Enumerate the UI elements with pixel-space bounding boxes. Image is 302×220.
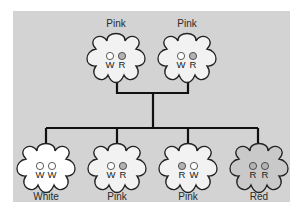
offspring-flower-pink-2: R W bbox=[159, 144, 217, 193]
offspring-label-3: Pink bbox=[178, 191, 198, 202]
allele-letter: R bbox=[262, 169, 269, 180]
offspring-label-1: White bbox=[33, 191, 59, 202]
allele-letter: R bbox=[179, 169, 186, 180]
parent-flower-1: W R bbox=[87, 34, 145, 83]
offspring-label-4: Red bbox=[250, 191, 268, 202]
allele-letter: R bbox=[119, 59, 126, 70]
allele-letter: W bbox=[107, 169, 116, 180]
parent-label-2: Pink bbox=[177, 18, 197, 29]
offspring-flower-white: W W bbox=[17, 144, 75, 193]
allele-letter: R bbox=[250, 169, 257, 180]
offspring-flower-pink-1: W R bbox=[88, 144, 146, 193]
allele-letter: W bbox=[36, 169, 45, 180]
parent-flower-2: W R bbox=[158, 34, 216, 83]
offspring-label-2: Pink bbox=[107, 191, 127, 202]
allele-letter: W bbox=[106, 59, 115, 70]
cross-diagram: W R Pink W R Pink W W White W R bbox=[0, 0, 302, 220]
allele-letter: W bbox=[48, 169, 57, 180]
parent-label-1: Pink bbox=[106, 18, 126, 29]
allele-letter: R bbox=[190, 59, 197, 70]
offspring-flower-red: R R bbox=[230, 144, 288, 193]
allele-letter: W bbox=[177, 59, 186, 70]
allele-letter: W bbox=[190, 169, 199, 180]
diagram-stage: W R Pink W R Pink W W White W R bbox=[0, 0, 302, 220]
allele-letter: R bbox=[120, 169, 127, 180]
